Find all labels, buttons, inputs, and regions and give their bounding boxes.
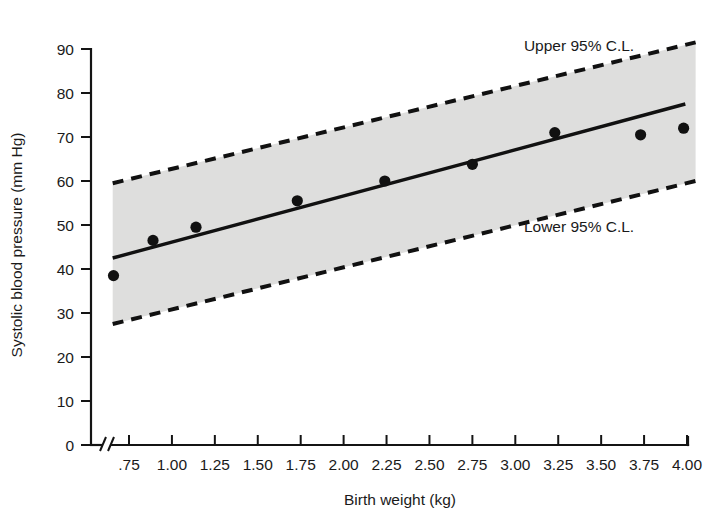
data-point [549,127,560,138]
y-axis-tick-label: 10 [57,393,75,410]
data-point [467,159,478,170]
x-axis-tick-label: 3.75 [629,456,659,473]
x-axis-tick-label: 2.75 [457,456,487,473]
x-axis-tick-label: 2.00 [329,456,360,473]
x-axis-tick-label: 1.75 [286,456,316,473]
data-point [635,129,646,140]
y-axis-tick-label: 60 [57,173,75,190]
data-point [678,123,689,134]
y-axis-tick-label: 30 [57,305,75,322]
x-axis-tick-label: 4.00 [672,456,703,473]
lower-confidence-limit-label: Lower 95% C.L. [524,218,634,235]
y-axis-tick-label: 70 [57,129,75,146]
x-axis-tick-label: 3.00 [500,456,531,473]
y-axis-tick-label: 80 [57,85,75,102]
data-point [190,222,201,233]
x-axis-tick-label: 1.00 [157,456,188,473]
x-axis-title: Birth weight (kg) [344,491,456,508]
data-point [292,195,303,206]
y-axis-tick-label: 90 [57,41,75,58]
x-axis-tick-label: 3.50 [586,456,617,473]
scatter-plot-svg: 0102030405060708090 .751.001.251.501.752… [0,0,707,518]
x-axis-tick-label: 1.50 [243,456,274,473]
x-axis-tick-label: .75 [118,456,140,473]
data-point [147,235,158,246]
x-axis-tick-label: 3.25 [543,456,573,473]
y-axis-tick-label: 0 [65,437,74,454]
y-axis-title: Systolic blood pressure (mm Hg) [8,133,25,358]
x-axis-tick-label: 1.25 [200,456,230,473]
data-point [379,175,390,186]
chart-figure: 0102030405060708090 .751.001.251.501.752… [0,0,707,518]
y-axis-tick-label: 50 [57,217,75,234]
upper-confidence-limit-label: Upper 95% C.L. [524,37,634,54]
y-axis-tick-label: 20 [57,349,75,366]
data-point [108,270,119,281]
x-axis-tick-label: 2.25 [371,456,401,473]
x-axis-tick-label: 2.50 [414,456,445,473]
y-axis-tick-label: 40 [57,261,75,278]
